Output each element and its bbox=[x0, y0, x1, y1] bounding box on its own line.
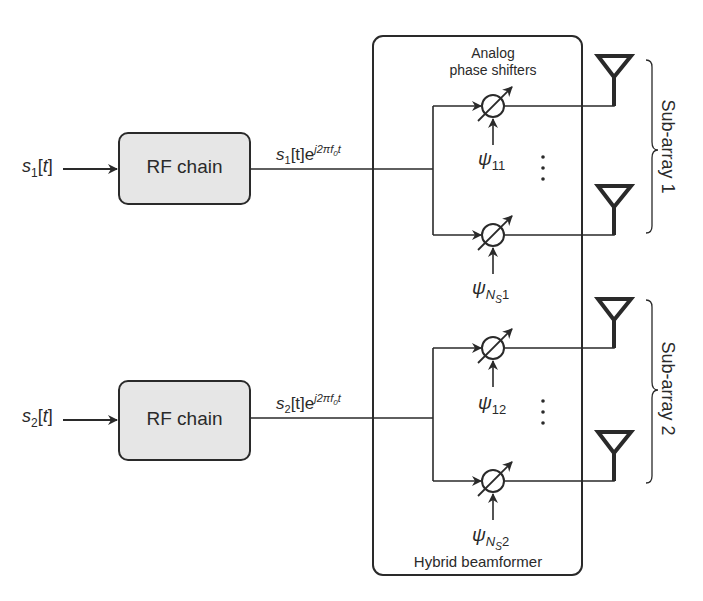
diagram-lines bbox=[0, 0, 703, 601]
phase-shifter-icon-ns1 bbox=[478, 216, 512, 274]
ellipsis-dots-2 bbox=[541, 399, 545, 425]
rf-chain-label-2: RF chain bbox=[119, 408, 250, 430]
beamformer-title-line-2: phase shifters bbox=[433, 62, 553, 79]
antenna-icon-3 bbox=[598, 299, 631, 348]
sub-array-label-1: Sub-array 1 bbox=[657, 97, 678, 197]
phase-shifter-icon-ns2 bbox=[478, 462, 512, 520]
hybrid-beamformer-box bbox=[373, 36, 582, 575]
phase-label-ns1: ψNS1 bbox=[472, 277, 509, 300]
phase-label-ns2: ψNS2 bbox=[472, 524, 509, 547]
phase-shifter-icon-12 bbox=[478, 329, 512, 387]
phase-label-11: ψ11 bbox=[478, 148, 505, 170]
antenna-icon-1 bbox=[598, 56, 631, 106]
rf-output-label-1: s1[t]ej2πf0t bbox=[276, 143, 341, 166]
hybrid-beamforming-diagram: s1[t] s2[t] RF chain RF chain s1[t]ej2πf… bbox=[0, 0, 703, 601]
antenna-icon-4 bbox=[598, 432, 631, 481]
input-label-s1: s1[t] bbox=[22, 156, 53, 180]
beamformer-footer-label: Hybrid beamformer bbox=[398, 553, 558, 570]
phase-shifter-icon-11 bbox=[478, 87, 512, 145]
beamformer-title: Analog phase shifters bbox=[433, 45, 553, 79]
antenna-icon-2 bbox=[598, 186, 631, 235]
phase-label-12: ψ12 bbox=[478, 392, 506, 414]
rf-chain-label-1: RF chain bbox=[119, 156, 250, 178]
input-label-s2: s2[t] bbox=[22, 406, 53, 430]
ellipsis-dots-1 bbox=[541, 155, 545, 181]
sub-array-label-2: Sub-array 2 bbox=[657, 339, 678, 439]
rf-output-label-2: s2[t]ej2πf0t bbox=[276, 392, 341, 415]
beamformer-title-line-1: Analog bbox=[433, 45, 553, 62]
